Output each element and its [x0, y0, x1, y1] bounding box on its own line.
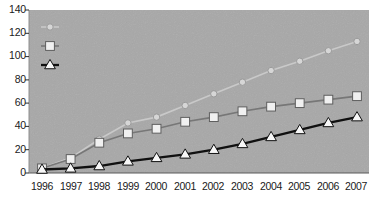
line-chart: 140 120 100 80 60 40 20 0 1996 1997 1998…: [0, 0, 378, 201]
data-point-total-2007: [354, 38, 360, 44]
data-point-industrial-2002: [209, 113, 218, 122]
data-point-total-2003: [239, 79, 245, 85]
y-axis-tick-marks: [25, 10, 29, 173]
data-point-total-2006: [325, 48, 331, 54]
data-point-industrial-1999: [124, 129, 133, 138]
data-point-industrial-2006: [324, 95, 333, 104]
data-point-industrial-1998: [95, 138, 104, 147]
data-point-industrial-2007: [353, 92, 362, 101]
data-point-total-2001: [182, 102, 188, 108]
data-point-industrial-2003: [238, 107, 247, 116]
data-point-industrial-2005: [295, 99, 304, 108]
plot-background-texture: [29, 10, 369, 173]
data-point-total-1999: [125, 120, 131, 126]
data-point-total-2000: [153, 114, 159, 120]
plot-area-svg: [0, 0, 378, 201]
data-point-total-2005: [297, 58, 303, 64]
data-point-total-2004: [268, 67, 274, 73]
legend-marker-total: [47, 24, 53, 30]
data-point-total-2002: [211, 91, 217, 97]
data-point-industrial-2004: [267, 102, 276, 111]
data-point-industrial-2001: [181, 117, 190, 126]
data-point-industrial-2000: [152, 124, 161, 133]
legend-marker-industrial: [46, 42, 55, 51]
